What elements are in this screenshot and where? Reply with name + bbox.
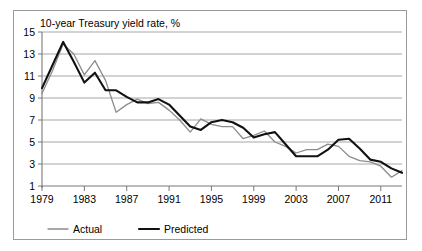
x-tick-label-2003: 2003 [284,193,308,205]
treasury-yield-line-chart: 13579111315 1979198319871991199519992003… [0,0,422,251]
legend-label-actual: Actual [73,223,102,235]
chart-legend: ActualPredicted [48,223,209,235]
data-series-group [42,42,402,177]
y-tick-label-9: 9 [29,92,35,104]
y-tick-label-7: 7 [29,114,35,126]
gridlines-group [42,32,402,164]
y-tick-label-15: 15 [23,26,35,38]
x-tick-label-1991: 1991 [157,193,181,205]
x-tick-label-1995: 1995 [200,193,224,205]
x-tick-label-1979: 1979 [30,193,54,205]
x-tick-label-2007: 2007 [327,193,351,205]
chart-container: 13579111315 1979198319871991199519992003… [0,0,422,251]
x-tick-label-1983: 1983 [73,193,97,205]
x-tick-label-2011: 2011 [370,193,393,205]
x-tick-label-1987: 1987 [115,193,139,205]
y-tick-label-1: 1 [29,180,35,192]
y-tick-label-11: 11 [24,70,35,82]
x-tick-label-1999: 1999 [242,193,266,205]
y-tick-label-3: 3 [29,158,35,170]
y-axis: 13579111315 [23,26,42,192]
y-tick-label-13: 13 [23,48,35,60]
chart-title: 10-year Treasury yield rate, % [40,17,180,29]
series-line-actual [42,44,402,177]
x-axis: 197919831987199119951999200320072011 [30,186,402,205]
legend-label-predicted: Predicted [164,223,209,235]
y-tick-label-5: 5 [29,136,35,148]
